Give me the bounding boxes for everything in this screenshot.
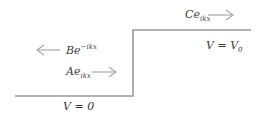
- region-right-label: V = V0: [206, 40, 243, 51]
- reflected-wave-label: Be−ikx: [66, 45, 97, 56]
- incident-wave-label: Aeikx: [66, 66, 91, 77]
- region-right-text: V = V: [206, 39, 238, 52]
- incident-coef: Ae: [66, 65, 80, 78]
- region-left-text: V = 0: [63, 100, 94, 113]
- region-left-label: V = 0: [63, 101, 94, 112]
- potential-step-diagram: [0, 0, 263, 117]
- transmitted-arrow-icon: [208, 10, 233, 20]
- reflected-arrow-icon: [37, 45, 60, 55]
- transmitted-exp: ikx: [200, 15, 210, 23]
- reflected-exp: −ikx: [81, 43, 97, 51]
- incident-arrow-icon: [92, 67, 116, 77]
- reflected-coef: Be: [66, 44, 81, 57]
- region-right-sub: 0: [238, 46, 242, 54]
- transmitted-coef: Ce: [185, 8, 200, 21]
- incident-exp: ikx: [80, 72, 90, 80]
- transmitted-wave-label: Ceikx: [185, 9, 210, 20]
